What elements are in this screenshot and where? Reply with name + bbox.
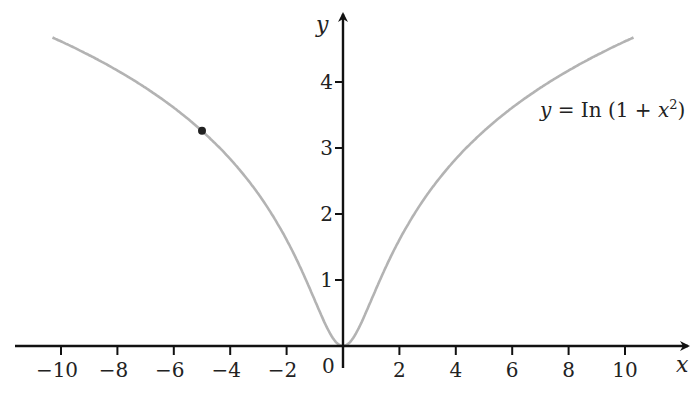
y-tick-label: 1: [320, 268, 333, 292]
x-axis-label: x: [676, 352, 689, 377]
x-tick-label: 8: [562, 358, 575, 382]
x-ticks: −10−8−6−4−2246810: [36, 346, 638, 382]
eq-x: x: [658, 98, 669, 122]
x-tick-label: −4: [211, 358, 240, 382]
y-axis-label: y: [315, 12, 329, 37]
x-tick-label: −6: [155, 358, 184, 382]
origin-label: 0: [322, 354, 335, 378]
y-tick-label: 3: [320, 136, 333, 160]
x-tick-label: −2: [268, 358, 297, 382]
y-tick-label: 4: [320, 70, 333, 94]
eq-end: ): [678, 98, 686, 122]
x-tick-label: −10: [36, 358, 78, 382]
equation-annotation: y = In (1 + x2): [539, 97, 685, 122]
eq-mid: = In (1 +: [551, 98, 658, 122]
highlighted-point: [198, 127, 206, 135]
x-tick-label: 6: [506, 358, 519, 382]
y-ticks: 1234: [320, 70, 343, 292]
x-tick-label: 2: [393, 358, 406, 382]
x-tick-label: 4: [449, 358, 462, 382]
eq-exponent: 2: [669, 97, 677, 112]
chart-canvas: −10−8−6−4−2246810 1234 0 x y y = In (1 +…: [0, 0, 698, 412]
eq-y: y: [539, 98, 552, 122]
x-tick-label: −8: [99, 358, 128, 382]
x-tick-label: 10: [612, 358, 637, 382]
y-tick-label: 2: [320, 202, 333, 226]
